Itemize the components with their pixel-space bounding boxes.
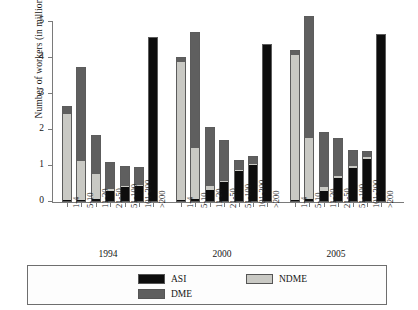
x-tick-2000-5-10 bbox=[195, 203, 196, 207]
x-label-1994-51-100: 51-100 bbox=[129, 184, 139, 208]
bar-segment-dme bbox=[305, 17, 313, 139]
y-tick-label-3: 3 bbox=[39, 87, 44, 98]
bar-1994->200[interactable] bbox=[148, 37, 158, 202]
bar-segment-dme bbox=[106, 163, 114, 189]
bar-segment-asi bbox=[149, 38, 157, 201]
legend: ASI NDME DME bbox=[27, 265, 387, 305]
x-label-2005-5-10: 5-10 bbox=[313, 192, 323, 208]
y-tick-label-2: 2 bbox=[39, 123, 44, 134]
bar-1994-5-10[interactable] bbox=[76, 67, 86, 202]
x-label-2005-21-50: 21-50 bbox=[342, 188, 352, 208]
x-label-1994-11-20: 11-20 bbox=[100, 188, 110, 208]
bar-segment-ndme bbox=[63, 114, 71, 200]
x-tick-2005-101-200 bbox=[367, 203, 368, 207]
bar-segment-asi bbox=[63, 200, 71, 201]
bar-2005-1-4[interactable] bbox=[290, 50, 300, 202]
x-tick-1994-1-4 bbox=[67, 203, 68, 207]
stacked-bar-chart: Number of workers (in millions) 012345 1… bbox=[0, 0, 418, 310]
bar-segment-dme bbox=[92, 136, 100, 174]
plot-area: 012345 bbox=[52, 22, 404, 203]
x-label-1994-21-50: 21-50 bbox=[114, 188, 124, 208]
x-tick-2000-21-50 bbox=[224, 203, 225, 207]
x-label-1994-101-200: 101-200 bbox=[143, 180, 153, 208]
x-tick-2005-11-20 bbox=[324, 203, 325, 207]
bar-segment-dme bbox=[77, 68, 85, 162]
x-tick-2000-101-200 bbox=[253, 203, 254, 207]
legend-label-ndme: NDME bbox=[279, 274, 307, 284]
y-tick-label-1: 1 bbox=[39, 159, 44, 170]
bar-2000-5-10[interactable] bbox=[190, 32, 200, 202]
bars-layer bbox=[52, 22, 404, 203]
y-tick-label-4: 4 bbox=[39, 51, 44, 62]
x-tick-1994-11-20 bbox=[96, 203, 97, 207]
legend-item-ndme: NDME bbox=[246, 274, 307, 284]
bar-segment-dme bbox=[191, 33, 199, 148]
bar-segment-ndme bbox=[177, 62, 185, 200]
x-tick-1994->200 bbox=[153, 203, 154, 207]
bar-segment-dme bbox=[349, 151, 357, 166]
x-tick-1994-51-100 bbox=[125, 203, 126, 207]
x-label-2000-5-10: 5-10 bbox=[199, 192, 209, 208]
bar-segment-dme bbox=[334, 139, 342, 176]
legend-item-dme: DME bbox=[138, 289, 192, 299]
bar-segment-dme bbox=[121, 167, 129, 186]
x-tick-2000->200 bbox=[267, 203, 268, 207]
x-tick-2005-5-10 bbox=[309, 203, 310, 207]
bar-segment-asi bbox=[263, 45, 271, 201]
bar-segment-dme bbox=[235, 161, 243, 170]
x-tick-1994-5-10 bbox=[81, 203, 82, 207]
x-tick-1994-101-200 bbox=[139, 203, 140, 207]
bar-segment-asi bbox=[291, 200, 299, 201]
bar-2000-1-4[interactable] bbox=[176, 57, 186, 202]
legend-item-asi: ASI bbox=[138, 274, 186, 284]
x-label-2005->200: >200 bbox=[385, 190, 395, 208]
x-tick-2005->200 bbox=[381, 203, 382, 207]
y-tick-label-0: 0 bbox=[39, 195, 44, 206]
x-label-2000-1-4: 1-4 bbox=[185, 197, 195, 208]
bar-2000->200[interactable] bbox=[262, 44, 272, 202]
bar-segment-asi bbox=[377, 35, 385, 201]
x-label-2005-11-20: 11-20 bbox=[328, 188, 338, 208]
group-label-2005: 2005 bbox=[284, 249, 388, 259]
x-label-1994->200: >200 bbox=[157, 190, 167, 208]
bar-segment-ndme bbox=[291, 55, 299, 200]
x-tick-2005-51-100 bbox=[353, 203, 354, 207]
x-label-2000->200: >200 bbox=[271, 190, 281, 208]
x-tick-2005-1-4 bbox=[295, 203, 296, 207]
legend-label-dme: DME bbox=[171, 289, 192, 299]
group-label-1994: 1994 bbox=[56, 249, 160, 259]
bar-segment-asi bbox=[177, 200, 185, 201]
x-label-2005-101-200: 101-200 bbox=[371, 180, 381, 208]
x-label-1994-5-10: 5-10 bbox=[85, 192, 95, 208]
x-label-2000-51-100: 51-100 bbox=[243, 184, 253, 208]
bar-segment-dme bbox=[320, 133, 328, 188]
y-tick-label-5: 5 bbox=[39, 15, 44, 26]
x-label-2000-101-200: 101-200 bbox=[257, 180, 267, 208]
x-tick-1994-21-50 bbox=[110, 203, 111, 207]
legend-label-asi: ASI bbox=[171, 274, 186, 284]
x-tick-2000-11-20 bbox=[210, 203, 211, 207]
legend-swatch-ndme bbox=[246, 274, 273, 284]
bar-2005->200[interactable] bbox=[376, 34, 386, 202]
x-label-1994-1-4: 1-4 bbox=[71, 197, 81, 208]
bar-segment-dme bbox=[220, 141, 228, 181]
bar-2005-5-10[interactable] bbox=[304, 16, 314, 202]
x-label-2000-11-20: 11-20 bbox=[214, 188, 224, 208]
legend-swatch-dme bbox=[138, 289, 165, 299]
bar-1994-1-4[interactable] bbox=[62, 106, 72, 202]
group-label-2000: 2000 bbox=[170, 249, 274, 259]
bar-segment-ndme bbox=[305, 138, 313, 198]
legend-swatch-asi bbox=[138, 274, 165, 284]
x-label-2000-21-50: 21-50 bbox=[228, 188, 238, 208]
bar-segment-dme bbox=[135, 168, 143, 185]
x-label-2005-1-4: 1-4 bbox=[299, 197, 309, 208]
x-label-2005-51-100: 51-100 bbox=[357, 184, 367, 208]
bar-segment-dme bbox=[63, 107, 71, 114]
bar-segment-dme bbox=[206, 128, 214, 186]
x-tick-2005-21-50 bbox=[338, 203, 339, 207]
x-tick-2000-51-100 bbox=[239, 203, 240, 207]
x-tick-2000-1-4 bbox=[181, 203, 182, 207]
